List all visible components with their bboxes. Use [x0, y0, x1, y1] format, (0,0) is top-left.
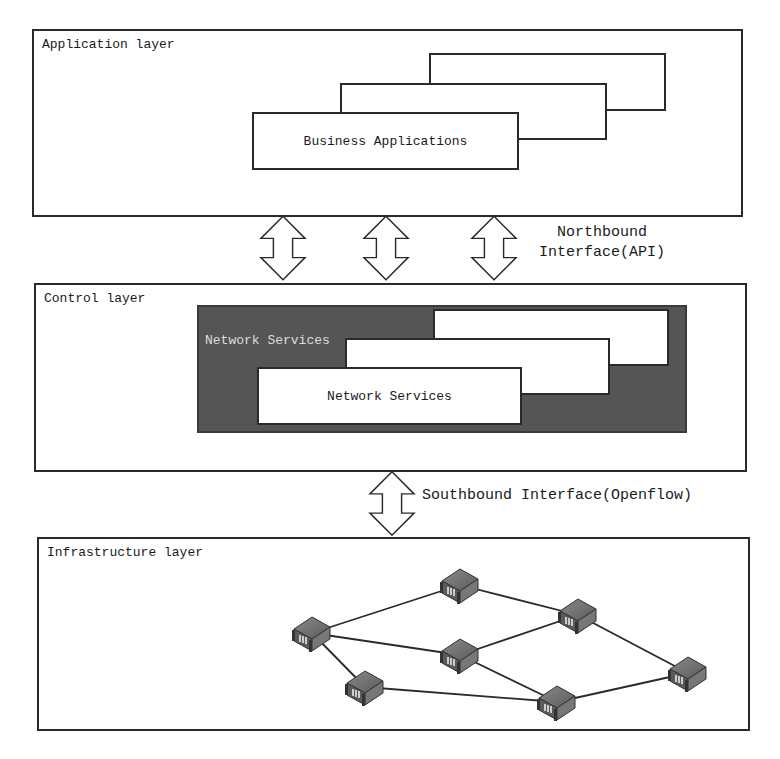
switch-icon: [558, 599, 596, 634]
switch-icon: [440, 569, 478, 604]
switch-icon: [668, 657, 706, 692]
northbound-arrow-1: [261, 216, 305, 279]
switch-icon: [440, 639, 478, 674]
link-n5-n6: [365, 687, 557, 702]
northbound-arrow-2: [364, 216, 408, 279]
link-n3-n7: [578, 615, 688, 673]
switch-icon: [537, 686, 575, 721]
link-n1-n2: [312, 585, 460, 633]
northbound-arrow-3: [472, 216, 516, 279]
link-n1-n4: [312, 633, 460, 655]
diagram-overlay: [0, 0, 780, 759]
switch-icon: [345, 671, 383, 706]
southbound-arrow: [370, 472, 414, 535]
